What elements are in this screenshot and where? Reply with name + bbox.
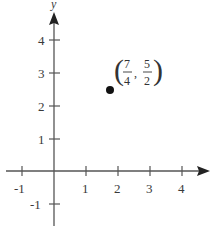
y-axis-title: y — [50, 0, 57, 11]
y-tick-label: 1 — [38, 132, 45, 147]
y-tick-label: 4 — [38, 33, 45, 48]
point-label: ( 7 4 , 5 2 ) — [114, 53, 163, 88]
y-tick-label: -1 — [30, 197, 41, 212]
close-paren: ) — [153, 53, 163, 87]
x-tick-label: -1 — [14, 181, 25, 196]
x-tick-label: 1 — [82, 181, 89, 196]
x-tick-label: 2 — [114, 181, 121, 196]
comma: , — [134, 66, 137, 80]
x-tick-label: 3 — [146, 181, 153, 196]
open-paren: ( — [114, 53, 124, 87]
x-denominator: 4 — [124, 74, 130, 88]
coordinate-plane: y -1 1 2 3 4 4 3 2 1 -1 ( 7 4 , 5 2 ) — [0, 0, 215, 232]
y-denominator: 2 — [144, 74, 150, 88]
y-tick-label: 2 — [38, 99, 45, 114]
x-numerator: 7 — [124, 57, 130, 71]
y-numerator: 5 — [144, 57, 150, 71]
y-tick-label: 3 — [38, 66, 45, 81]
data-point — [106, 86, 114, 94]
x-tick-label: 4 — [178, 181, 185, 196]
